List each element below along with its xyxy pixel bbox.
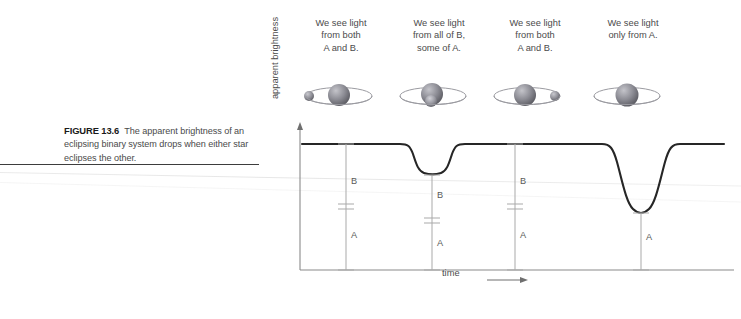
bracket-3-upper-label: B [520, 176, 526, 186]
light-curve-plot [272, 118, 737, 286]
scenario-label-3: We see light from both A and B. [483, 17, 587, 54]
bracket-2-upper-label: B [437, 190, 443, 200]
scenario-4-line-2: only from A. [581, 29, 685, 41]
scenario-label-group: We see light from both A and B. We see l… [281, 17, 733, 69]
star-a-large [328, 84, 350, 106]
bracket-1 [338, 144, 354, 270]
scenario-label-1: We see light from both A and B. [289, 17, 393, 54]
scenario-3-line-2: from both [483, 29, 587, 41]
scenario-1-line-2: from both [289, 29, 393, 41]
time-arrow [487, 277, 528, 283]
scenario-label-2: We see light from all of B, some of A. [387, 17, 491, 54]
orbit-diagram-4 [579, 74, 683, 118]
star-b-small-eclipsing [425, 95, 437, 107]
figure-number: FIGURE 13.6 [64, 125, 119, 136]
orbit-diagram-2 [385, 74, 489, 118]
star-a-large [616, 84, 639, 107]
scenario-3-line-3: A and B. [483, 42, 587, 54]
bracket-3-lower-label: A [520, 230, 526, 240]
caption-divider-rule [0, 164, 259, 165]
x-axis-label: time [442, 268, 460, 278]
brightness-curve [302, 144, 724, 213]
y-axis-label: apparent brightness [270, 0, 280, 128]
star-b-small [550, 91, 560, 101]
figure-caption: FIGURE 13.6 The apparent brightness of a… [64, 124, 276, 165]
bracket-2-lower-label: A [437, 238, 443, 248]
figure-13-6: FIGURE 13.6 The apparent brightness of a… [0, 0, 741, 319]
scenario-2-line-1: We see light [387, 17, 491, 29]
bracket-1-upper-label: B [351, 176, 357, 186]
scenario-1-line-3: A and B. [289, 42, 393, 54]
orbit-diagram-3 [481, 74, 585, 118]
scenario-1-line-1: We see light [289, 17, 393, 29]
light-curve-chart: apparent brightness [272, 118, 737, 286]
scenario-4-line-1: We see light [581, 17, 685, 29]
bracket-4-lower-label: A [646, 232, 652, 242]
bracket-3 [507, 144, 523, 270]
scenario-2-line-2: from all of B, [387, 29, 491, 41]
orbit-diagram-group [281, 74, 733, 118]
star-a-large [514, 84, 536, 106]
scenario-3-line-1: We see light [483, 17, 587, 29]
bracket-1-lower-label: A [351, 230, 357, 240]
orbit-diagram-1 [287, 74, 391, 118]
scenario-2-line-3: some of A. [387, 42, 491, 54]
scenario-label-4: We see light only from A. [581, 17, 685, 42]
